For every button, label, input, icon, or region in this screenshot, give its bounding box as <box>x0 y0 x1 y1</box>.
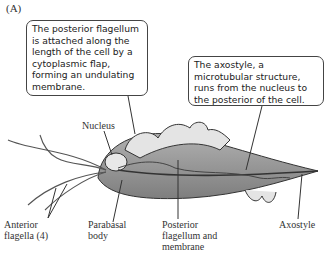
label-axostyle: Axostyle <box>279 219 315 231</box>
callout-undulating-membrane: The posterior flagellum is attached alon… <box>26 20 148 96</box>
posterior-membrane-fold <box>245 190 276 202</box>
anterior-flagella <box>8 135 106 210</box>
label-parabasal-2: body <box>88 230 108 242</box>
leader-callout-1 <box>128 96 135 134</box>
callout-axostyle: The axostyle, a microtubular structure, … <box>188 56 324 106</box>
label-posterior-3: membrane <box>162 241 204 253</box>
label-posterior-1: Posterior <box>162 219 198 231</box>
label-parabasal-1: Parabasal <box>88 219 126 231</box>
label-posterior-2: flagellum and <box>162 230 217 242</box>
nucleus-shape <box>105 153 127 171</box>
label-nucleus: Nucleus <box>82 120 115 132</box>
panel-label: (A) <box>6 2 21 14</box>
leader-nucleus <box>104 131 112 155</box>
trichomonas-diagram: (A) The posterior flagellum is attached … <box>0 0 326 260</box>
label-anterior-2: flagella (4) <box>4 230 48 242</box>
label-anterior-1: Anterior <box>4 219 38 231</box>
leader-axostyle <box>298 174 302 219</box>
